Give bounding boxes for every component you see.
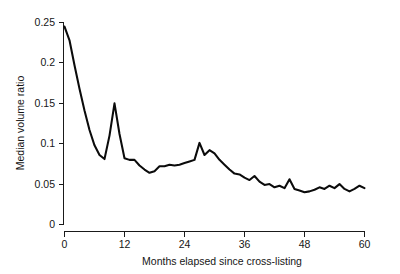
- x-tick-label-0: 0: [62, 238, 68, 250]
- y-axis-tick-labels: 0 0.05 0.1 0.15 0.2 0.25: [35, 16, 56, 230]
- y-tick-label-0.15: 0.15: [35, 97, 56, 109]
- y-axis-label: Median volume ratio: [14, 76, 26, 171]
- x-tick-label-60: 60: [359, 238, 371, 250]
- x-tick-label-36: 36: [239, 238, 251, 250]
- x-axis-ticks: [65, 232, 365, 237]
- x-axis-label: Months elapsed since cross-listing: [142, 255, 302, 267]
- x-axis-tick-labels: 0 12 24 36 48 60: [62, 238, 371, 250]
- y-tick-label-0.2: 0.2: [40, 56, 55, 68]
- y-tick-label-0.05: 0.05: [35, 178, 56, 190]
- y-tick-label-0.1: 0.1: [40, 137, 55, 149]
- data-series-median-volume-ratio: [65, 27, 365, 193]
- y-axis-ticks: [59, 23, 64, 225]
- y-tick-label-0: 0: [49, 218, 55, 230]
- chart-figure: 0 0.05 0.1 0.15 0.2 0.25 0 12 24 36 48 6…: [0, 0, 400, 274]
- x-tick-label-24: 24: [179, 238, 191, 250]
- x-tick-label-12: 12: [119, 238, 131, 250]
- x-tick-label-48: 48: [299, 238, 311, 250]
- line-chart-plot: 0 0.05 0.1 0.15 0.2 0.25 0 12 24 36 48 6…: [0, 0, 400, 274]
- y-tick-label-0.25: 0.25: [35, 16, 56, 28]
